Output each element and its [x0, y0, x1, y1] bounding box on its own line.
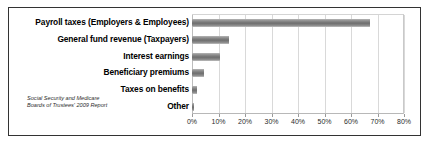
- x-axis-tick-label: 70%: [365, 118, 391, 125]
- plot-area: [192, 14, 404, 114]
- x-axis-tick: [378, 114, 379, 117]
- category-label: Payroll taxes (Employers & Employees): [13, 17, 189, 27]
- bar-series: [192, 15, 403, 113]
- x-axis-tick: [219, 114, 220, 117]
- source-note-line-2: Boards of Trustees' 2009 Report: [27, 102, 107, 109]
- x-axis-tick-label: 0%: [179, 118, 205, 125]
- x-axis-tick: [404, 114, 405, 117]
- x-axis-tick: [245, 114, 246, 117]
- x-axis-tick: [298, 114, 299, 117]
- category-label: General fund revenue (Taxpayers): [13, 34, 189, 44]
- category-label: Interest earnings: [13, 51, 189, 61]
- bar: [192, 19, 370, 27]
- x-axis-tick-label: 30%: [259, 118, 285, 125]
- bar: [192, 36, 229, 44]
- x-axis-tick-label: 40%: [285, 118, 311, 125]
- category-label: Beneficiary premiums: [13, 67, 189, 77]
- category-label: Taxes on benefits: [13, 84, 189, 94]
- x-axis-tick-label: 60%: [338, 118, 364, 125]
- x-axis-tick: [325, 114, 326, 117]
- x-axis-tick-label: 10%: [206, 118, 232, 125]
- x-axis-tick: [192, 114, 193, 117]
- x-axis-tick-label: 80%: [391, 118, 417, 125]
- x-axis-tick: [272, 114, 273, 117]
- x-axis-tick-label: 50%: [312, 118, 338, 125]
- x-axis-tick: [351, 114, 352, 117]
- bar: [192, 53, 220, 61]
- x-axis-tick-label: 20%: [232, 118, 258, 125]
- gridline: [404, 15, 405, 113]
- source-note: Social Security and Medicare Boards of T…: [27, 95, 107, 109]
- bar: [192, 103, 194, 111]
- chart-plot-container: Payroll taxes (Employers & Employees)Gen…: [9, 8, 420, 135]
- x-axis: 0%10%20%30%40%50%60%70%80%: [192, 114, 404, 132]
- source-note-line-1: Social Security and Medicare: [27, 95, 107, 102]
- chart-frame: Payroll taxes (Employers & Employees)Gen…: [8, 7, 421, 136]
- bar: [192, 69, 204, 77]
- bar: [192, 86, 197, 94]
